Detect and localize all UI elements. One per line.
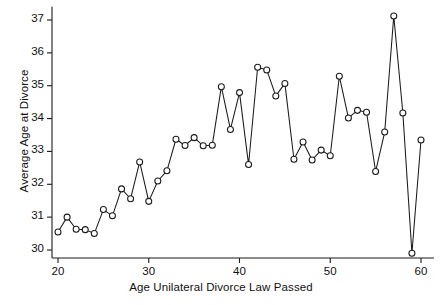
data-point	[200, 143, 206, 149]
data-point	[100, 207, 106, 213]
data-point	[264, 67, 270, 73]
data-point	[382, 129, 388, 135]
axis-ticks	[47, 20, 421, 263]
data-point	[336, 73, 342, 79]
data-point	[109, 213, 115, 219]
data-point	[309, 157, 315, 163]
data-point	[173, 136, 179, 142]
data-point	[373, 168, 379, 174]
data-point	[164, 168, 170, 174]
data-point	[418, 137, 424, 143]
plot-area	[0, 0, 442, 305]
data-point	[64, 214, 70, 220]
data-point	[146, 198, 152, 204]
data-point	[400, 110, 406, 116]
data-point	[182, 143, 188, 149]
data-point	[91, 231, 97, 237]
data-point	[191, 135, 197, 141]
data-point	[291, 156, 297, 162]
data-point	[354, 107, 360, 113]
data-point	[137, 159, 143, 165]
data-point	[227, 126, 233, 132]
data-point	[218, 84, 224, 90]
data-point	[73, 226, 79, 232]
data-point	[155, 178, 161, 184]
data-point	[82, 227, 88, 233]
data-point	[246, 162, 252, 168]
data-point	[327, 153, 333, 159]
data-point	[364, 109, 370, 115]
data-point	[237, 90, 243, 96]
data-point	[128, 196, 134, 202]
axis-lines	[52, 7, 434, 258]
data-point	[119, 186, 125, 192]
data-point	[282, 80, 288, 86]
data-point	[209, 142, 215, 148]
data-point	[300, 139, 306, 145]
data-point	[255, 64, 261, 70]
data-point-markers	[55, 13, 424, 256]
data-point	[391, 13, 397, 19]
data-point	[318, 147, 324, 153]
data-point	[55, 229, 61, 235]
data-point	[409, 250, 415, 256]
data-point	[345, 115, 351, 121]
data-point	[273, 93, 279, 99]
chart-container: Average Age at Divorce Age Unilateral Di…	[0, 0, 442, 305]
